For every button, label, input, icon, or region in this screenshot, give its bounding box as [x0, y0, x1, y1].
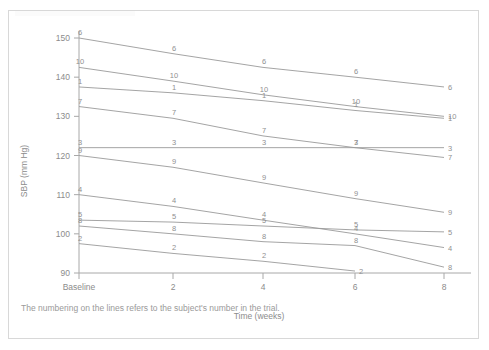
- y-axis: 90100110120130140150: [56, 31, 79, 278]
- series-line-subject-2: [79, 244, 355, 271]
- figure-panel: 90100110120130140150 Baseline2468 666661…: [8, 10, 479, 339]
- point-label-subject-9: 9: [78, 146, 82, 155]
- y-tick-label: 140: [56, 72, 70, 82]
- point-label-subject-5: 5: [448, 228, 452, 237]
- point-label-subject-2: 2: [172, 243, 176, 252]
- point-label-subject-3: 3: [448, 144, 452, 153]
- point-label-subject-6: 6: [172, 44, 176, 53]
- y-tick-label: 150: [56, 33, 70, 43]
- chart-plot-area: 90100110120130140150 Baseline2468 666661…: [9, 11, 480, 340]
- x-tick-label: Baseline: [63, 282, 96, 292]
- y-tick-label: 100: [56, 229, 70, 239]
- x-axis: Baseline2468: [63, 273, 471, 292]
- point-label-subject-6: 6: [262, 57, 266, 66]
- point-label-subject-5: 5: [354, 220, 358, 229]
- x-tick-label: 8: [442, 282, 447, 292]
- point-label-subject-10: 10: [76, 57, 84, 66]
- point-label-subject-2: 2: [262, 251, 266, 260]
- y-tick-label: 130: [56, 111, 70, 121]
- series-point-labels: 6666610101010101111177777333339999944444…: [76, 28, 457, 276]
- point-label-subject-1: 1: [448, 114, 452, 123]
- point-label-subject-8: 8: [78, 216, 82, 225]
- point-label-subject-1: 1: [354, 100, 358, 109]
- y-tick-label: 120: [56, 151, 70, 161]
- point-label-subject-9: 9: [354, 189, 358, 198]
- point-label-subject-4: 4: [448, 244, 452, 253]
- figure-caption: The numbering on the lines refers to the…: [21, 303, 471, 314]
- point-label-subject-10: 10: [170, 71, 178, 80]
- point-label-subject-8: 8: [354, 236, 358, 245]
- point-label-subject-9: 9: [172, 157, 176, 166]
- x-tick-label: 6: [353, 282, 358, 292]
- series-line-subject-9: [79, 156, 444, 213]
- y-tick-label: 110: [56, 190, 70, 200]
- point-label-subject-9: 9: [262, 173, 266, 182]
- y-tick-label: 90: [61, 268, 71, 278]
- point-label-subject-4: 4: [172, 196, 176, 205]
- point-label-subject-5: 5: [172, 212, 176, 221]
- point-label-subject-8: 8: [448, 263, 452, 272]
- point-label-subject-7: 7: [78, 97, 82, 106]
- point-label-subject-8: 8: [172, 224, 176, 233]
- point-label-subject-2: 2: [359, 267, 363, 276]
- point-label-subject-6: 6: [354, 67, 358, 76]
- x-tick-label: 4: [261, 282, 266, 292]
- point-label-subject-1: 1: [172, 83, 176, 92]
- point-label-subject-3: 3: [172, 138, 176, 147]
- point-label-subject-2: 2: [78, 234, 82, 243]
- x-tick-label: 2: [171, 282, 176, 292]
- point-label-subject-7: 7: [262, 126, 266, 135]
- point-label-subject-8: 8: [262, 232, 266, 241]
- point-label-subject-3: 3: [354, 138, 358, 147]
- point-label-subject-1: 1: [262, 91, 266, 100]
- point-label-subject-3: 3: [262, 138, 266, 147]
- point-label-subject-6: 6: [78, 28, 82, 37]
- y-axis-title: SBP (mm Hg): [19, 145, 29, 197]
- point-label-subject-9: 9: [448, 208, 452, 217]
- point-label-subject-1: 1: [78, 77, 82, 86]
- point-label-subject-7: 7: [172, 108, 176, 117]
- point-label-subject-4: 4: [78, 185, 82, 194]
- point-label-subject-5: 5: [262, 216, 266, 225]
- sbp-line-chart: 90100110120130140150 Baseline2468 666661…: [9, 11, 480, 340]
- point-label-subject-7: 7: [448, 153, 452, 162]
- point-label-subject-6: 6: [448, 83, 452, 92]
